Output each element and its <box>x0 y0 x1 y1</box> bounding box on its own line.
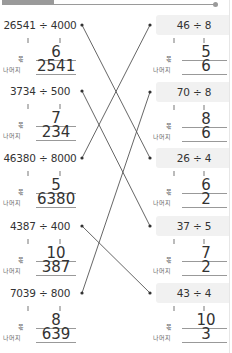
remainder-value: 234 <box>37 125 75 140</box>
page-edge <box>229 0 232 353</box>
remainder-underline <box>36 140 76 141</box>
left-problem-2: 3734 ÷ 500 몫 7 나머지 234 <box>2 81 82 141</box>
expression-box: 37 ÷ 5 <box>156 216 232 236</box>
quotient-label: 몫 <box>18 322 24 331</box>
remainder-underline <box>182 207 227 208</box>
right-problem-3: 26 ÷ 4 몫 6 나머지 2 <box>156 148 232 208</box>
right-dot-4[interactable] <box>148 224 151 227</box>
division-expression: 46 ÷ 8 <box>156 19 232 31</box>
quotient-label: 몫 <box>166 121 172 130</box>
quotient-label: 몫 <box>18 120 24 129</box>
right-problem-2: 70 ÷ 8 몫 8 나머지 6 <box>156 82 232 142</box>
division-expression: 4387 ÷ 400 <box>2 220 78 232</box>
remainder-underline <box>182 342 227 343</box>
expression-box: 46380 ÷ 8000 <box>2 148 78 168</box>
quotient-label: 몫 <box>166 187 172 196</box>
remainder-label: 나머지 <box>153 266 171 275</box>
division-expression: 7039 ÷ 800 <box>2 287 78 299</box>
remainder-underline <box>36 74 76 75</box>
connection-line-5 <box>82 92 150 293</box>
quotient-label: 몫 <box>166 322 172 331</box>
expression-box: 43 ÷ 4 <box>156 283 232 303</box>
equal-mark <box>27 171 29 176</box>
right-problem-1: 46 ÷ 8 몫 5 나머지 6 <box>156 15 232 75</box>
left-problem-4: 4387 ÷ 400 몫 10 나머지 387 <box>2 216 82 276</box>
quotient-label: 몫 <box>166 255 172 264</box>
remainder-label: 나머지 <box>3 266 21 275</box>
remainder-value: 387 <box>37 260 75 275</box>
division-expression: 46380 ÷ 8000 <box>2 152 78 164</box>
equal-mark <box>173 239 175 244</box>
quotient-label: 몫 <box>18 54 24 63</box>
equal-mark <box>173 306 175 311</box>
equal-mark <box>173 171 175 176</box>
remainder-underline <box>182 275 227 276</box>
left-problem-3: 46380 ÷ 8000 몫 5 나머지 6380 <box>2 148 82 208</box>
remainder-label: 나머지 <box>153 333 171 342</box>
remainder-label: 나머지 <box>153 65 171 74</box>
division-expression: 70 ÷ 8 <box>156 86 232 98</box>
connection-line-4 <box>82 226 150 293</box>
left-problem-5: 7039 ÷ 800 몫 8 나머지 639 <box>2 283 82 343</box>
remainder-label: 나머지 <box>153 132 171 141</box>
expression-box: 70 ÷ 8 <box>156 82 232 102</box>
expression-box: 46 ÷ 8 <box>156 15 232 35</box>
remainder-label: 나머지 <box>3 333 21 342</box>
equal-mark <box>173 38 175 43</box>
equal-mark <box>27 306 29 311</box>
quotient-label: 몫 <box>18 255 24 264</box>
remainder-value: 6380 <box>37 192 75 207</box>
equal-mark <box>27 104 29 109</box>
division-expression: 26541 ÷ 4000 <box>2 19 78 31</box>
left-problem-1: 26541 ÷ 4000 몫 6 나머지 2541 <box>2 15 82 75</box>
remainder-value: 639 <box>37 327 75 342</box>
remainder-underline <box>182 141 227 142</box>
remainder-label: 나머지 <box>3 198 21 207</box>
remainder-underline <box>36 275 76 276</box>
expression-box: 4387 ÷ 400 <box>2 216 78 236</box>
remainder-value: 6 <box>187 126 225 141</box>
equal-mark <box>173 105 175 110</box>
remainder-label: 나머지 <box>153 198 171 207</box>
expression-box: 26541 ÷ 4000 <box>2 15 78 35</box>
remainder-underline <box>182 74 227 75</box>
remainder-value: 2541 <box>37 59 75 74</box>
quotient-label: 몫 <box>166 54 172 63</box>
remainder-value: 3 <box>187 327 225 342</box>
connection-line-2 <box>82 91 150 226</box>
quotient-label: 몫 <box>18 187 24 196</box>
remainder-value: 2 <box>187 260 225 275</box>
expression-box: 26 ÷ 4 <box>156 148 232 168</box>
right-dot-5[interactable] <box>148 291 151 294</box>
division-expression: 43 ÷ 4 <box>156 287 232 299</box>
remainder-label: 나머지 <box>3 131 21 140</box>
division-expression: 37 ÷ 5 <box>156 220 232 232</box>
remainder-label: 나머지 <box>3 65 21 74</box>
division-expression: 3734 ÷ 500 <box>2 85 78 97</box>
expression-box: 7039 ÷ 800 <box>2 283 78 303</box>
remainder-underline <box>36 342 76 343</box>
right-problem-5: 43 ÷ 4 몫 10 나머지 3 <box>156 283 232 343</box>
remainder-value: 6 <box>187 59 225 74</box>
right-dot-1[interactable] <box>148 23 151 26</box>
division-expression: 26 ÷ 4 <box>156 152 232 164</box>
remainder-value: 2 <box>187 192 225 207</box>
expression-box: 3734 ÷ 500 <box>2 81 78 101</box>
right-dot-3[interactable] <box>148 156 151 159</box>
remainder-underline <box>36 207 76 208</box>
equal-mark <box>27 239 29 244</box>
right-dot-2[interactable] <box>148 90 151 93</box>
right-problem-4: 37 ÷ 5 몫 7 나머지 2 <box>156 216 232 276</box>
equal-mark <box>27 38 29 43</box>
